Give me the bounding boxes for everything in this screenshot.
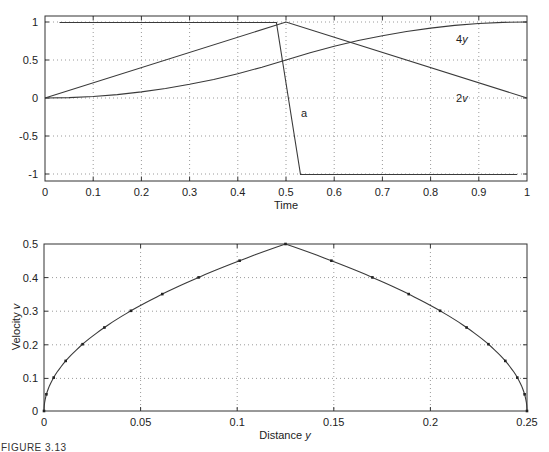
x-tick: 0.1 xyxy=(230,416,245,428)
data-point-marker xyxy=(45,393,48,396)
bottom-ticks xyxy=(44,244,527,411)
y-tick: 0.1 xyxy=(23,372,38,384)
bottom-y-axis-label: Velocity v xyxy=(10,302,22,350)
data-point-marker xyxy=(526,410,529,413)
x-tick: 0 xyxy=(42,186,48,198)
x-tick: 0.7 xyxy=(375,186,390,198)
data-point-marker xyxy=(516,376,519,379)
x-tick: 0.4 xyxy=(230,186,245,198)
bottom-axes-frame xyxy=(44,244,527,411)
y-tick: 0 xyxy=(32,92,38,104)
data-point-marker xyxy=(130,310,133,313)
velocity-markers xyxy=(43,243,529,413)
top-plot: 1 0.5 0 -0.5 -1 0 0.1 0.2 0.3 0.4 0.5 0.… xyxy=(19,16,530,211)
bottom-x-axis-label: Distance y xyxy=(259,429,312,441)
y-tick: 0.3 xyxy=(23,305,38,317)
top-y-tick-labels: 1 0.5 0 -0.5 -1 xyxy=(19,16,38,180)
x-tick: 0.3 xyxy=(182,186,197,198)
data-point-marker xyxy=(238,259,241,262)
y-tick: 1 xyxy=(32,16,38,28)
x-tick: 0.2 xyxy=(423,416,438,428)
y-tick: 0.5 xyxy=(23,238,38,250)
bottom-plot: 0.5 0.4 0.3 0.2 0.1 0 0 0.05 0.1 0.15 0.… xyxy=(10,238,538,441)
x-tick: 0.15 xyxy=(323,416,344,428)
data-point-marker xyxy=(43,410,46,413)
y-tick: -1 xyxy=(28,168,38,180)
figure-caption: FIGURE 3.13 xyxy=(1,442,67,452)
x-tick: 0.05 xyxy=(130,416,151,428)
x-tick: 0.6 xyxy=(327,186,342,198)
data-point-marker xyxy=(487,343,490,346)
x-tick: 0.8 xyxy=(423,186,438,198)
x-tick: 1 xyxy=(524,186,530,198)
annotation-a: a xyxy=(301,107,308,119)
data-point-marker xyxy=(371,276,374,279)
figure: 1 0.5 0 -0.5 -1 0 0.1 0.2 0.3 0.4 0.5 0.… xyxy=(0,0,549,452)
y-tick: 0.4 xyxy=(23,272,38,284)
velocity-curve xyxy=(44,244,527,411)
bottom-x-tick-labels: 0 0.05 0.1 0.15 0.2 0.25 xyxy=(41,416,538,428)
top-x-axis-label: Time xyxy=(274,199,298,211)
data-point-marker xyxy=(161,293,164,296)
bottom-grid xyxy=(44,244,527,411)
top-grid xyxy=(45,16,527,181)
annotation-4y: 4y xyxy=(456,33,469,45)
x-tick: 0.1 xyxy=(86,186,101,198)
data-point-marker xyxy=(64,360,67,363)
x-tick: 0.5 xyxy=(278,186,293,198)
data-point-marker xyxy=(197,276,200,279)
y-tick: 0 xyxy=(32,405,38,417)
x-tick: 0 xyxy=(41,416,47,428)
data-point-marker xyxy=(523,393,526,396)
data-point-marker xyxy=(439,310,442,313)
data-point-marker xyxy=(465,326,468,329)
data-point-marker xyxy=(103,326,106,329)
data-point-marker xyxy=(407,293,410,296)
data-point-marker xyxy=(52,376,55,379)
annotation-2v: 2v xyxy=(456,92,469,104)
x-tick: 0.9 xyxy=(471,186,486,198)
y-tick: 0.2 xyxy=(23,339,38,351)
top-x-tick-labels: 0 0.1 0.2 0.3 0.4 0.5 0.6 0.7 0.8 0.9 1 xyxy=(42,186,530,198)
series-a xyxy=(60,23,518,175)
x-tick: 0.2 xyxy=(134,186,149,198)
y-tick: -0.5 xyxy=(19,130,38,142)
data-point-marker xyxy=(504,360,507,363)
y-tick: 0.5 xyxy=(23,54,38,66)
data-point-marker xyxy=(284,243,287,246)
bottom-y-tick-labels: 0.5 0.4 0.3 0.2 0.1 0 xyxy=(23,238,38,417)
data-point-marker xyxy=(330,259,333,262)
data-point-marker xyxy=(81,343,84,346)
x-tick: 0.25 xyxy=(516,416,537,428)
